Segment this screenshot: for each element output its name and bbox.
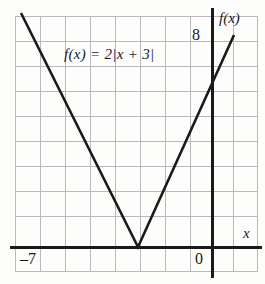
plot-canvas: [0, 0, 265, 284]
x-axis-title: x: [243, 226, 250, 241]
y-axis-tick-label-8: 8: [192, 27, 200, 43]
x-axis-tick-label-minus-7: –7: [20, 251, 36, 267]
y-axis-title: f(x): [219, 11, 240, 26]
graph-figure: f(x) = 2|x + 3| 8 0 –7 f(x) x: [0, 0, 265, 284]
origin-label: 0: [195, 251, 203, 267]
formula-annotation: f(x) = 2|x + 3|: [64, 47, 154, 62]
